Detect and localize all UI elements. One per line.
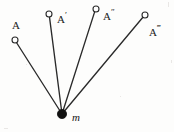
node-label-a-triple-prime-text: A xyxy=(149,26,157,38)
node-marker-a-prime xyxy=(46,11,52,17)
node-label-a-prime: A′ xyxy=(57,11,66,25)
scan-artifact xyxy=(120,96,121,97)
node-label-a-triple-prime: A‴ xyxy=(149,24,160,38)
pendulum-diagram: A A′ A″ A‴ m xyxy=(0,0,174,132)
node-label-a: A xyxy=(12,17,20,31)
scan-artifact xyxy=(26,64,27,65)
rod-to-node-a-double-prime xyxy=(62,11,95,114)
node-label-a-text: A xyxy=(12,19,20,31)
node-marker-a-double-prime xyxy=(93,6,99,12)
node-marker-a-triple-prime xyxy=(142,12,148,18)
diagram-canvas xyxy=(0,0,174,132)
node-label-a-prime-text: A xyxy=(57,13,65,25)
pivot-mass-label: m xyxy=(72,112,80,123)
node-label-a-double-prime-primes: ″ xyxy=(111,7,114,17)
node-label-a-double-prime-text: A xyxy=(103,10,111,22)
node-label-a-double-prime: A″ xyxy=(103,8,114,22)
scan-artifact xyxy=(4,128,8,129)
rod-to-node-a xyxy=(16,42,62,115)
scan-artifact xyxy=(168,2,169,7)
node-label-a-triple-prime-primes: ‴ xyxy=(157,23,160,33)
node-label-a-prime-primes: ′ xyxy=(65,10,66,20)
scan-artifact xyxy=(171,60,172,63)
pivot-mass-dot xyxy=(57,109,66,118)
rod-to-node-a-triple-prime xyxy=(62,17,143,114)
rod-to-node-a-prime xyxy=(49,16,62,114)
node-marker-a xyxy=(12,37,18,43)
